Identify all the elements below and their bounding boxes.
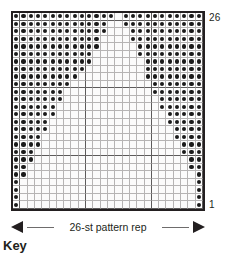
row-number-bottom: 1 bbox=[209, 200, 215, 210]
chart-cell bbox=[42, 28, 49, 36]
chart-cell bbox=[71, 149, 78, 157]
chart-cell bbox=[86, 141, 93, 149]
chart-cell bbox=[196, 134, 203, 142]
chart-cell bbox=[57, 201, 64, 209]
chart-cell bbox=[35, 194, 42, 202]
chart-cell bbox=[79, 13, 86, 21]
chart-cell bbox=[130, 66, 137, 74]
chart-cell bbox=[188, 126, 195, 134]
chart-cell bbox=[50, 186, 57, 194]
chart-cell bbox=[13, 156, 20, 164]
chart-cell bbox=[152, 58, 159, 66]
chart-cell bbox=[13, 126, 20, 134]
chart-cell bbox=[188, 96, 195, 104]
chart-cell bbox=[42, 111, 49, 119]
chart-cell bbox=[13, 171, 20, 179]
chart-cell bbox=[57, 36, 64, 44]
chart-cell bbox=[71, 88, 78, 96]
chart-cell bbox=[42, 194, 49, 202]
chart-cell bbox=[174, 194, 181, 202]
chart-cell bbox=[57, 103, 64, 111]
chart-cell bbox=[20, 186, 27, 194]
chart-cell bbox=[35, 51, 42, 59]
chart-cell bbox=[71, 119, 78, 127]
chart-cell bbox=[28, 81, 35, 89]
chart-cell bbox=[166, 126, 173, 134]
chart-cell bbox=[42, 51, 49, 59]
chart-cell bbox=[42, 126, 49, 134]
chart-cell bbox=[130, 126, 137, 134]
chart-cell bbox=[196, 51, 203, 59]
chart-cell bbox=[137, 134, 144, 142]
chart-cell bbox=[20, 73, 27, 81]
chart-cell bbox=[28, 66, 35, 74]
chart-cell bbox=[174, 149, 181, 157]
chart-cell bbox=[181, 179, 188, 187]
chart-cell bbox=[145, 88, 152, 96]
chart-cell bbox=[123, 156, 130, 164]
chart-cell bbox=[64, 73, 71, 81]
chart-cell bbox=[13, 179, 20, 187]
chart-cell bbox=[50, 126, 57, 134]
chart-cell bbox=[174, 21, 181, 29]
chart-cell bbox=[57, 58, 64, 66]
chart-cell bbox=[50, 111, 57, 119]
chart-cell bbox=[13, 13, 20, 21]
key-heading: Key bbox=[3, 239, 27, 253]
chart-cell bbox=[20, 164, 27, 172]
chart-cell bbox=[50, 21, 57, 29]
chart-cell bbox=[152, 66, 159, 74]
chart-cell bbox=[86, 156, 93, 164]
chart-cell bbox=[64, 141, 71, 149]
chart-cell bbox=[137, 36, 144, 44]
chart-cell bbox=[101, 156, 108, 164]
chart-cell bbox=[79, 21, 86, 29]
chart-cell bbox=[166, 201, 173, 209]
chart-cell bbox=[86, 96, 93, 104]
chart-cell bbox=[35, 28, 42, 36]
chart-cell bbox=[188, 186, 195, 194]
chart-cell bbox=[196, 103, 203, 111]
chart-cell bbox=[42, 21, 49, 29]
chart-cell bbox=[137, 43, 144, 51]
chart-cell bbox=[115, 141, 122, 149]
chart-cell bbox=[159, 141, 166, 149]
chart-cell bbox=[86, 28, 93, 36]
chart-cell bbox=[130, 119, 137, 127]
chart-cell bbox=[28, 126, 35, 134]
chart-cell bbox=[101, 58, 108, 66]
chart-cell bbox=[115, 73, 122, 81]
chart-cell bbox=[108, 103, 115, 111]
chart-cell bbox=[137, 51, 144, 59]
chart-cell bbox=[152, 13, 159, 21]
chart-cell bbox=[196, 96, 203, 104]
chart-cell bbox=[174, 164, 181, 172]
chart-cell bbox=[145, 51, 152, 59]
chart-cell bbox=[130, 43, 137, 51]
chart-cell bbox=[71, 36, 78, 44]
chart-cell bbox=[166, 156, 173, 164]
chart-cell bbox=[108, 201, 115, 209]
chart-cell bbox=[188, 21, 195, 29]
chart-cell bbox=[28, 58, 35, 66]
chart-cell bbox=[20, 149, 27, 157]
chart-cell bbox=[20, 171, 27, 179]
chart-cell bbox=[42, 186, 49, 194]
chart-cell bbox=[86, 73, 93, 81]
chart-cell bbox=[137, 21, 144, 29]
chart-cell bbox=[159, 43, 166, 51]
chart-cell bbox=[28, 156, 35, 164]
chart-cell bbox=[115, 96, 122, 104]
chart-cell bbox=[93, 179, 100, 187]
chart-cell bbox=[145, 96, 152, 104]
chart-cell bbox=[42, 36, 49, 44]
chart-cell bbox=[50, 96, 57, 104]
chart-cell bbox=[152, 164, 159, 172]
chart-cell bbox=[174, 43, 181, 51]
chart-cell bbox=[79, 119, 86, 127]
chart-cell bbox=[93, 43, 100, 51]
chart-cell bbox=[50, 179, 57, 187]
chart-cell bbox=[13, 96, 20, 104]
chart-cell bbox=[174, 58, 181, 66]
chart-cell bbox=[64, 111, 71, 119]
